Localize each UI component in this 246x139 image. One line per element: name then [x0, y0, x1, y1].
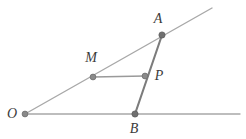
vertices-group — [22, 32, 165, 117]
geometry-canvas — [0, 0, 246, 139]
point-A — [159, 32, 165, 38]
point-O — [22, 111, 28, 117]
label-A: A — [154, 12, 163, 26]
point-M — [90, 74, 96, 80]
label-O: O — [7, 107, 17, 121]
point-P — [142, 73, 148, 79]
ray-OA — [25, 8, 212, 114]
label-M: M — [85, 51, 97, 65]
label-P: P — [155, 69, 164, 83]
lines-group — [25, 8, 240, 114]
label-B: B — [130, 122, 139, 136]
segment-MP — [93, 76, 145, 77]
point-B — [132, 111, 138, 117]
geometry-diagram: A M P B O — [0, 0, 246, 139]
